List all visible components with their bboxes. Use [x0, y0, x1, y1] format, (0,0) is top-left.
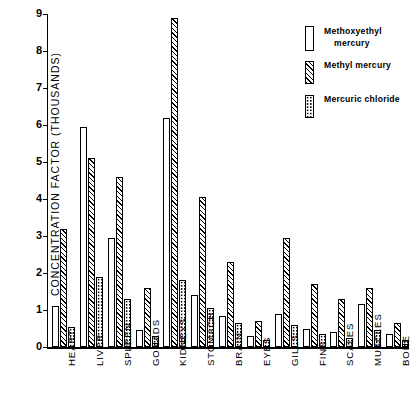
x-tick-label: GONADS — [150, 319, 161, 366]
y-tick-mark — [43, 162, 48, 163]
bar-group — [136, 14, 159, 347]
y-axis-line — [47, 14, 48, 347]
bar-group — [108, 14, 131, 347]
bar — [303, 329, 310, 348]
bar-group — [247, 14, 270, 347]
bar — [247, 336, 254, 347]
legend-label-methyl-mercury: Methyl mercury — [324, 60, 391, 72]
legend-item-methyl-mercury: Methyl mercury — [305, 58, 415, 92]
legend: Methoxyethyl mercury Methyl mercury Merc… — [305, 24, 415, 126]
bar — [163, 118, 170, 347]
legend-swatch-plain-icon — [305, 26, 314, 51]
bar-group — [191, 14, 214, 347]
x-tick-label: FINS — [317, 341, 328, 366]
x-tick-label: SCALES — [344, 323, 355, 366]
x-tick-label: MUSCLES — [372, 313, 383, 366]
bar — [275, 314, 282, 347]
y-tick-label: 7 — [36, 81, 42, 94]
x-tick-label: HEART — [66, 329, 77, 366]
bar — [330, 332, 337, 347]
y-tick-label: 3 — [36, 229, 42, 242]
x-tick-label: SPLEEN — [122, 323, 133, 366]
x-tick-label: EYES — [261, 337, 272, 366]
bar — [386, 334, 393, 347]
y-tick-label: 4 — [36, 192, 42, 205]
y-tick-mark — [43, 14, 48, 15]
y-tick-mark — [43, 88, 48, 89]
x-tick-label: BRAIN — [233, 332, 244, 366]
legend-swatch-dots-icon — [305, 95, 314, 118]
x-tick-label: STOMACH — [205, 312, 216, 366]
bar — [80, 127, 87, 347]
y-tick-label: 6 — [36, 118, 42, 131]
legend-label-methoxyethyl-mercury: Methoxyethyl mercury — [324, 26, 382, 49]
y-tick-label: 1 — [36, 303, 42, 316]
legend-label-line1: Methoxyethyl — [324, 26, 382, 36]
y-tick-mark — [43, 310, 48, 311]
legend-label-line2: mercury — [324, 38, 382, 50]
y-tick-label: 9 — [36, 7, 42, 20]
bar — [108, 238, 115, 347]
y-tick-label: 0 — [36, 340, 42, 353]
y-tick-label: 8 — [36, 44, 42, 57]
y-tick-label: 2 — [36, 266, 42, 279]
bar — [219, 316, 226, 347]
legend-item-methoxyethyl-mercury: Methoxyethyl mercury — [305, 24, 415, 58]
bar-group — [275, 14, 298, 347]
bar-group — [52, 14, 75, 347]
y-tick-mark — [43, 273, 48, 274]
bar — [191, 295, 198, 347]
legend-label-line1: Methyl mercury — [324, 60, 391, 70]
y-tick-mark — [43, 236, 48, 237]
bar — [88, 158, 95, 347]
legend-label-mercuric-chloride: Mercuric chloride — [324, 94, 400, 106]
x-tick-label: LIVER — [94, 334, 105, 366]
y-tick-mark — [43, 199, 48, 200]
legend-swatch-hatch-icon — [305, 61, 314, 84]
bar-group — [219, 14, 242, 347]
bar-group — [163, 14, 186, 347]
bar — [283, 238, 290, 347]
y-tick-mark — [43, 125, 48, 126]
bar — [358, 304, 365, 347]
bar — [136, 330, 143, 347]
x-tick-label: KIDNEYS — [177, 318, 188, 366]
y-tick-mark — [43, 347, 48, 348]
legend-label-line1: Mercuric chloride — [324, 94, 400, 104]
bar-chart: CONCENTRATION FACTOR (THOUSANDS) 0123456… — [0, 0, 416, 414]
bar — [171, 18, 178, 347]
y-tick-mark — [43, 51, 48, 52]
bar — [116, 177, 123, 347]
bar — [311, 284, 318, 347]
x-tick-label: GILLS — [289, 334, 300, 366]
bar — [52, 306, 59, 347]
x-tick-label: BONE — [400, 335, 411, 366]
bar-group — [80, 14, 103, 347]
legend-item-mercuric-chloride: Mercuric chloride — [305, 92, 415, 126]
y-tick-label: 5 — [36, 155, 42, 168]
